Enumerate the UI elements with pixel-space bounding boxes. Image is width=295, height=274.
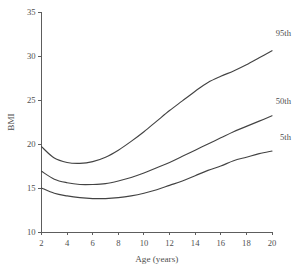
series-end-labels: 95th50th5th xyxy=(276,28,292,141)
x-tick-label: 2 xyxy=(39,238,43,248)
x-tick-label: 10 xyxy=(140,238,149,248)
x-tick-label: 4 xyxy=(65,238,70,248)
x-tick-label: 14 xyxy=(191,238,200,248)
y-tick-label: 25 xyxy=(27,95,36,105)
y-axis-title: BMI xyxy=(6,113,16,130)
x-tick-label: 16 xyxy=(216,238,225,248)
percentile-curve-95th xyxy=(42,51,273,164)
y-tick-label: 15 xyxy=(27,183,36,193)
y-tick-label: 10 xyxy=(27,227,36,237)
x-axis-title: Age (years) xyxy=(135,254,178,264)
percentile-curve-50th xyxy=(42,116,273,185)
y-tick-label: 30 xyxy=(27,51,36,61)
series-label-95th: 95th xyxy=(276,28,292,38)
bmi-for-age-percentile-chart: 2468101214161820 101520253035 95th50th5t… xyxy=(0,0,295,274)
percentile-curve-5th xyxy=(42,151,273,199)
y-tick-label: 35 xyxy=(27,7,36,17)
percentile-curves xyxy=(42,51,273,199)
x-tick-label: 8 xyxy=(116,238,120,248)
y-tick-label: 20 xyxy=(27,139,36,149)
chart-axes xyxy=(42,12,273,232)
series-label-5th: 5th xyxy=(280,132,292,142)
axis-tick-marks xyxy=(38,12,272,235)
series-label-50th: 50th xyxy=(276,96,292,106)
x-axis-tick-labels: 2468101214161820 xyxy=(39,238,276,248)
x-tick-label: 20 xyxy=(268,238,277,248)
x-tick-label: 12 xyxy=(165,238,174,248)
x-tick-label: 18 xyxy=(242,238,251,248)
y-axis-tick-labels: 101520253035 xyxy=(27,7,36,237)
chart-canvas: 2468101214161820 101520253035 95th50th5t… xyxy=(0,0,295,274)
x-tick-label: 6 xyxy=(91,238,96,248)
